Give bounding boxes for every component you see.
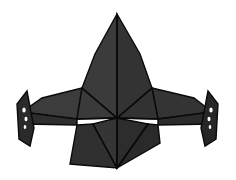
wingtip-right-hole-2 (208, 117, 211, 122)
image-canvas (0, 0, 236, 180)
wingtip-right-hole-1 (209, 107, 212, 112)
crease-line-5 (117, 118, 158, 119)
wingtip-right-hole-3 (209, 125, 212, 129)
wingtip-left-hole-3 (24, 125, 27, 129)
crease-line-4 (77, 118, 117, 119)
wingtip-left-hole-1 (22, 107, 25, 112)
origami-spacecraft-figure (0, 0, 236, 180)
wingtip-left-hole-2 (25, 117, 28, 122)
